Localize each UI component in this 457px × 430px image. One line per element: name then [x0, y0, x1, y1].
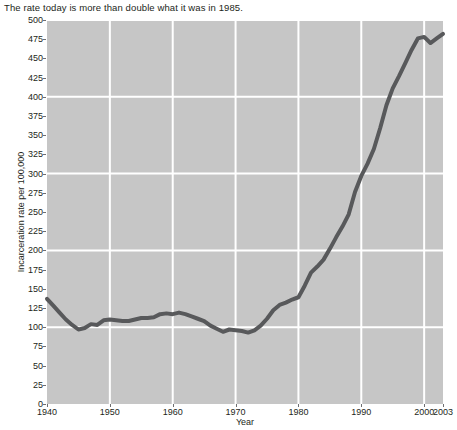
- x-tick-mark: [361, 404, 362, 407]
- data-line-path: [47, 34, 443, 333]
- x-tick-label: 2003: [423, 408, 457, 417]
- y-tick-mark: [43, 308, 46, 309]
- x-axis-label: Year: [47, 417, 443, 427]
- chart-title: The rate today is more than double what …: [4, 2, 243, 14]
- x-tick-mark: [424, 404, 425, 407]
- chart-figure: The rate today is more than double what …: [0, 0, 457, 430]
- y-tick-mark: [43, 231, 46, 232]
- x-tick-label: 1980: [278, 408, 318, 417]
- y-tick-mark: [43, 116, 46, 117]
- y-tick-mark: [43, 270, 46, 271]
- x-tick-mark: [173, 404, 174, 407]
- y-tick-mark: [43, 20, 46, 21]
- y-tick-mark: [43, 154, 46, 155]
- y-axis-label: Incarceration rate per 100,000: [14, 20, 28, 404]
- x-tick-label: 1970: [216, 408, 256, 417]
- x-tick-mark: [298, 404, 299, 407]
- y-tick-mark: [43, 97, 46, 98]
- x-tick-mark: [443, 404, 444, 407]
- x-tick-mark: [47, 404, 48, 407]
- horizontal-gridlines: [47, 20, 443, 327]
- plot-area: [47, 20, 443, 404]
- y-tick-mark: [43, 346, 46, 347]
- x-tick-label: 1940: [27, 408, 67, 417]
- x-tick-label: 1950: [90, 408, 130, 417]
- y-tick-mark: [43, 289, 46, 290]
- vertical-gridlines: [110, 20, 424, 404]
- y-tick-mark: [43, 39, 46, 40]
- x-tick-label: 1990: [341, 408, 381, 417]
- y-tick-mark: [43, 404, 46, 405]
- x-tick-mark: [236, 404, 237, 407]
- y-tick-mark: [43, 58, 46, 59]
- y-tick-mark: [43, 250, 46, 251]
- y-tick-mark: [43, 78, 46, 79]
- y-tick-mark: [43, 135, 46, 136]
- y-tick-mark: [43, 327, 46, 328]
- x-tick-label: 1960: [153, 408, 193, 417]
- y-tick-mark: [43, 193, 46, 194]
- y-tick-mark: [43, 174, 46, 175]
- y-tick-mark: [43, 366, 46, 367]
- y-tick-mark: [43, 385, 46, 386]
- series-line-incarceration-rate: [47, 20, 443, 404]
- y-tick-mark: [43, 212, 46, 213]
- x-tick-mark: [110, 404, 111, 407]
